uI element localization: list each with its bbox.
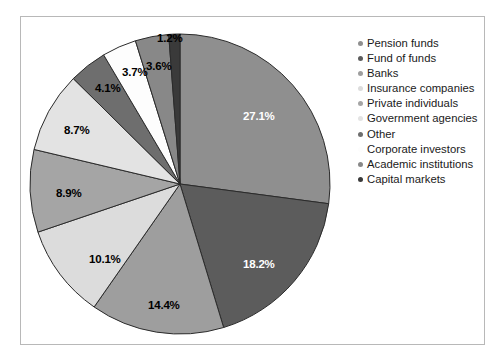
pie-value-label: 10.1%: [89, 253, 121, 265]
legend-item-label: Banks: [367, 66, 398, 81]
legend-swatch-icon: [358, 177, 363, 182]
legend-swatch-icon: [358, 41, 363, 46]
legend-swatch-icon: [358, 132, 363, 137]
legend-item[interactable]: Insurance companies: [358, 81, 488, 96]
pie-value-label: 8.7%: [64, 124, 89, 136]
legend-item[interactable]: Private individuals: [358, 96, 488, 111]
legend-swatch-icon: [358, 101, 363, 106]
legend-item[interactable]: Academic institutions: [358, 157, 488, 172]
pie-slice-group: [30, 34, 330, 334]
legend-item[interactable]: Fund of funds: [358, 51, 488, 66]
legend-item-label: Pension funds: [367, 36, 439, 51]
legend-item[interactable]: Government agencies: [358, 111, 488, 126]
legend-item-label: Capital markets: [367, 172, 445, 187]
legend-item-label: Academic institutions: [367, 157, 473, 172]
legend-swatch-icon: [358, 147, 363, 152]
legend-item[interactable]: Other: [358, 127, 488, 142]
legend-item-label: Fund of funds: [367, 51, 436, 66]
pie-value-label: 4.1%: [95, 82, 120, 94]
legend-item[interactable]: Corporate investors: [358, 142, 488, 157]
legend-swatch-icon: [358, 71, 363, 76]
pie-value-label: 18.2%: [243, 258, 275, 270]
legend-item-label: Corporate investors: [367, 142, 466, 157]
legend-item[interactable]: Pension funds: [358, 36, 488, 51]
legend-item-label: Government agencies: [367, 111, 478, 126]
legend-item[interactable]: Capital markets: [358, 172, 488, 187]
legend-swatch-icon: [358, 86, 363, 91]
pie-value-label: 27.1%: [243, 110, 275, 122]
legend-swatch-icon: [358, 162, 363, 167]
legend-item[interactable]: Banks: [358, 66, 488, 81]
pie-value-label: 14.4%: [148, 299, 180, 311]
pie-value-label: 3.6%: [146, 60, 171, 72]
legend: Pension fundsFund of fundsBanksInsurance…: [358, 36, 488, 187]
pie-svg: [22, 18, 342, 348]
legend-item-label: Insurance companies: [367, 81, 474, 96]
legend-swatch-icon: [358, 56, 363, 61]
legend-item-label: Private individuals: [367, 96, 458, 111]
pie-value-label: 3.7%: [122, 66, 147, 78]
pie-value-label: 8.9%: [56, 187, 81, 199]
legend-item-label: Other: [367, 127, 395, 142]
pie-value-label: 1.2%: [157, 32, 182, 44]
pie-chart-figure: 27.1%18.2%14.4%10.1%8.9%8.7%4.1%3.7%3.6%…: [0, 0, 503, 364]
legend-swatch-icon: [358, 116, 363, 121]
